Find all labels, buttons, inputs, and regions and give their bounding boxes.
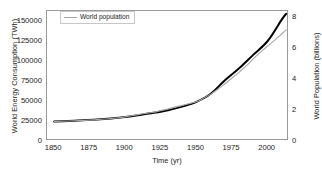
y-tick-left-0: 0: [38, 136, 42, 145]
x-tick-1850: 1850: [45, 143, 62, 152]
x-tick-1950: 1950: [187, 143, 204, 152]
y-axis-right-ticks: 02468: [292, 10, 318, 140]
series-line-world-energy-consumption: [54, 14, 286, 122]
series-line-world-population: [54, 30, 286, 122]
x-tick-1875: 1875: [80, 143, 97, 152]
x-tick-1925: 1925: [151, 143, 168, 152]
y-tick-left-25000: 25000: [21, 116, 42, 125]
y-tick-left-125000: 125000: [17, 36, 42, 45]
y-tick-right-0: 0: [292, 136, 296, 145]
plot-area: [46, 10, 288, 140]
x-tick-2000: 2000: [258, 143, 275, 152]
x-tick-1900: 1900: [116, 143, 133, 152]
chart-figure: World Energy Consumption (TWh) World Pop…: [0, 0, 322, 172]
x-axis-title: Time (yr): [46, 156, 288, 165]
y-tick-right-8: 8: [292, 12, 296, 21]
legend-label-world-population: World population: [80, 14, 129, 21]
y-tick-right-2: 2: [292, 105, 296, 114]
plot-lines: [47, 11, 289, 141]
y-tick-right-4: 4: [292, 74, 296, 83]
y-tick-right-6: 6: [292, 43, 296, 52]
y-tick-left-50000: 50000: [21, 96, 42, 105]
chart-legend: World population: [60, 11, 135, 24]
y-tick-left-100000: 100000: [17, 56, 42, 65]
y-axis-left-ticks: 0250005000075000100000125000150000: [0, 10, 42, 140]
x-axis-ticks: 1850187519001925195019752000: [46, 143, 288, 155]
y-tick-left-150000: 150000: [17, 16, 42, 25]
y-tick-left-75000: 75000: [21, 76, 42, 85]
x-tick-1975: 1975: [223, 143, 240, 152]
legend-line-marker-world-population: [64, 17, 77, 18]
